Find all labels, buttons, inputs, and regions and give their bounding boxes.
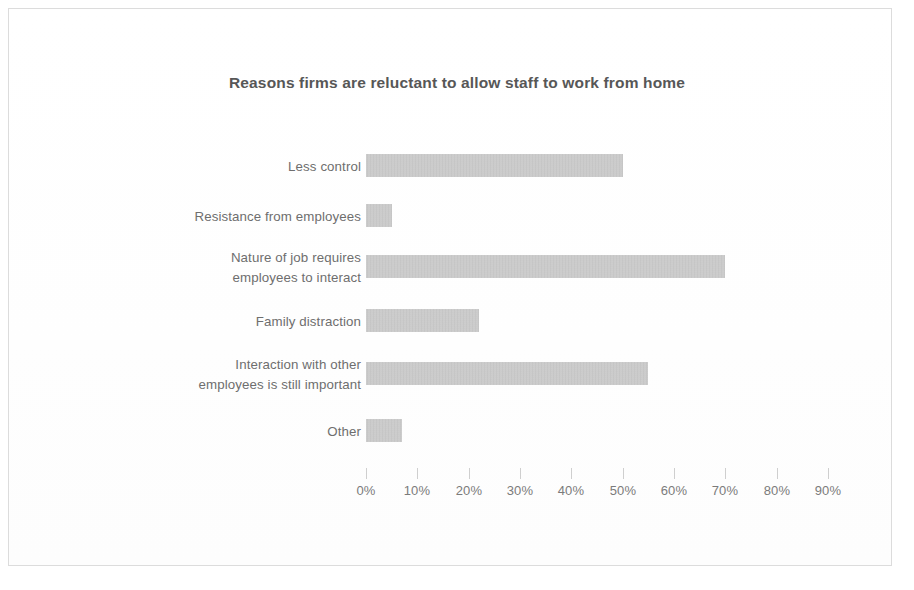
figure-root: Reasons firms are reluctant to allow sta… [0,0,914,590]
x-tick-mark [674,468,675,479]
x-tick-mark [469,468,470,479]
x-tick-mark [571,468,572,479]
x-tick-mark [623,468,624,479]
x-tick-mark [366,468,367,479]
x-tick-mark [417,468,418,479]
x-tick-mark [828,468,829,479]
x-tick-label: 40% [541,483,601,498]
x-axis: 0% 10% 20% 30% 40% 50% 60% 70% 80% 90% [0,0,914,590]
x-tick-mark [520,468,521,479]
x-tick-label: 70% [695,483,755,498]
x-tick-label: 90% [798,483,858,498]
x-tick-mark [725,468,726,479]
x-tick-label: 10% [387,483,447,498]
x-tick-mark [777,468,778,479]
